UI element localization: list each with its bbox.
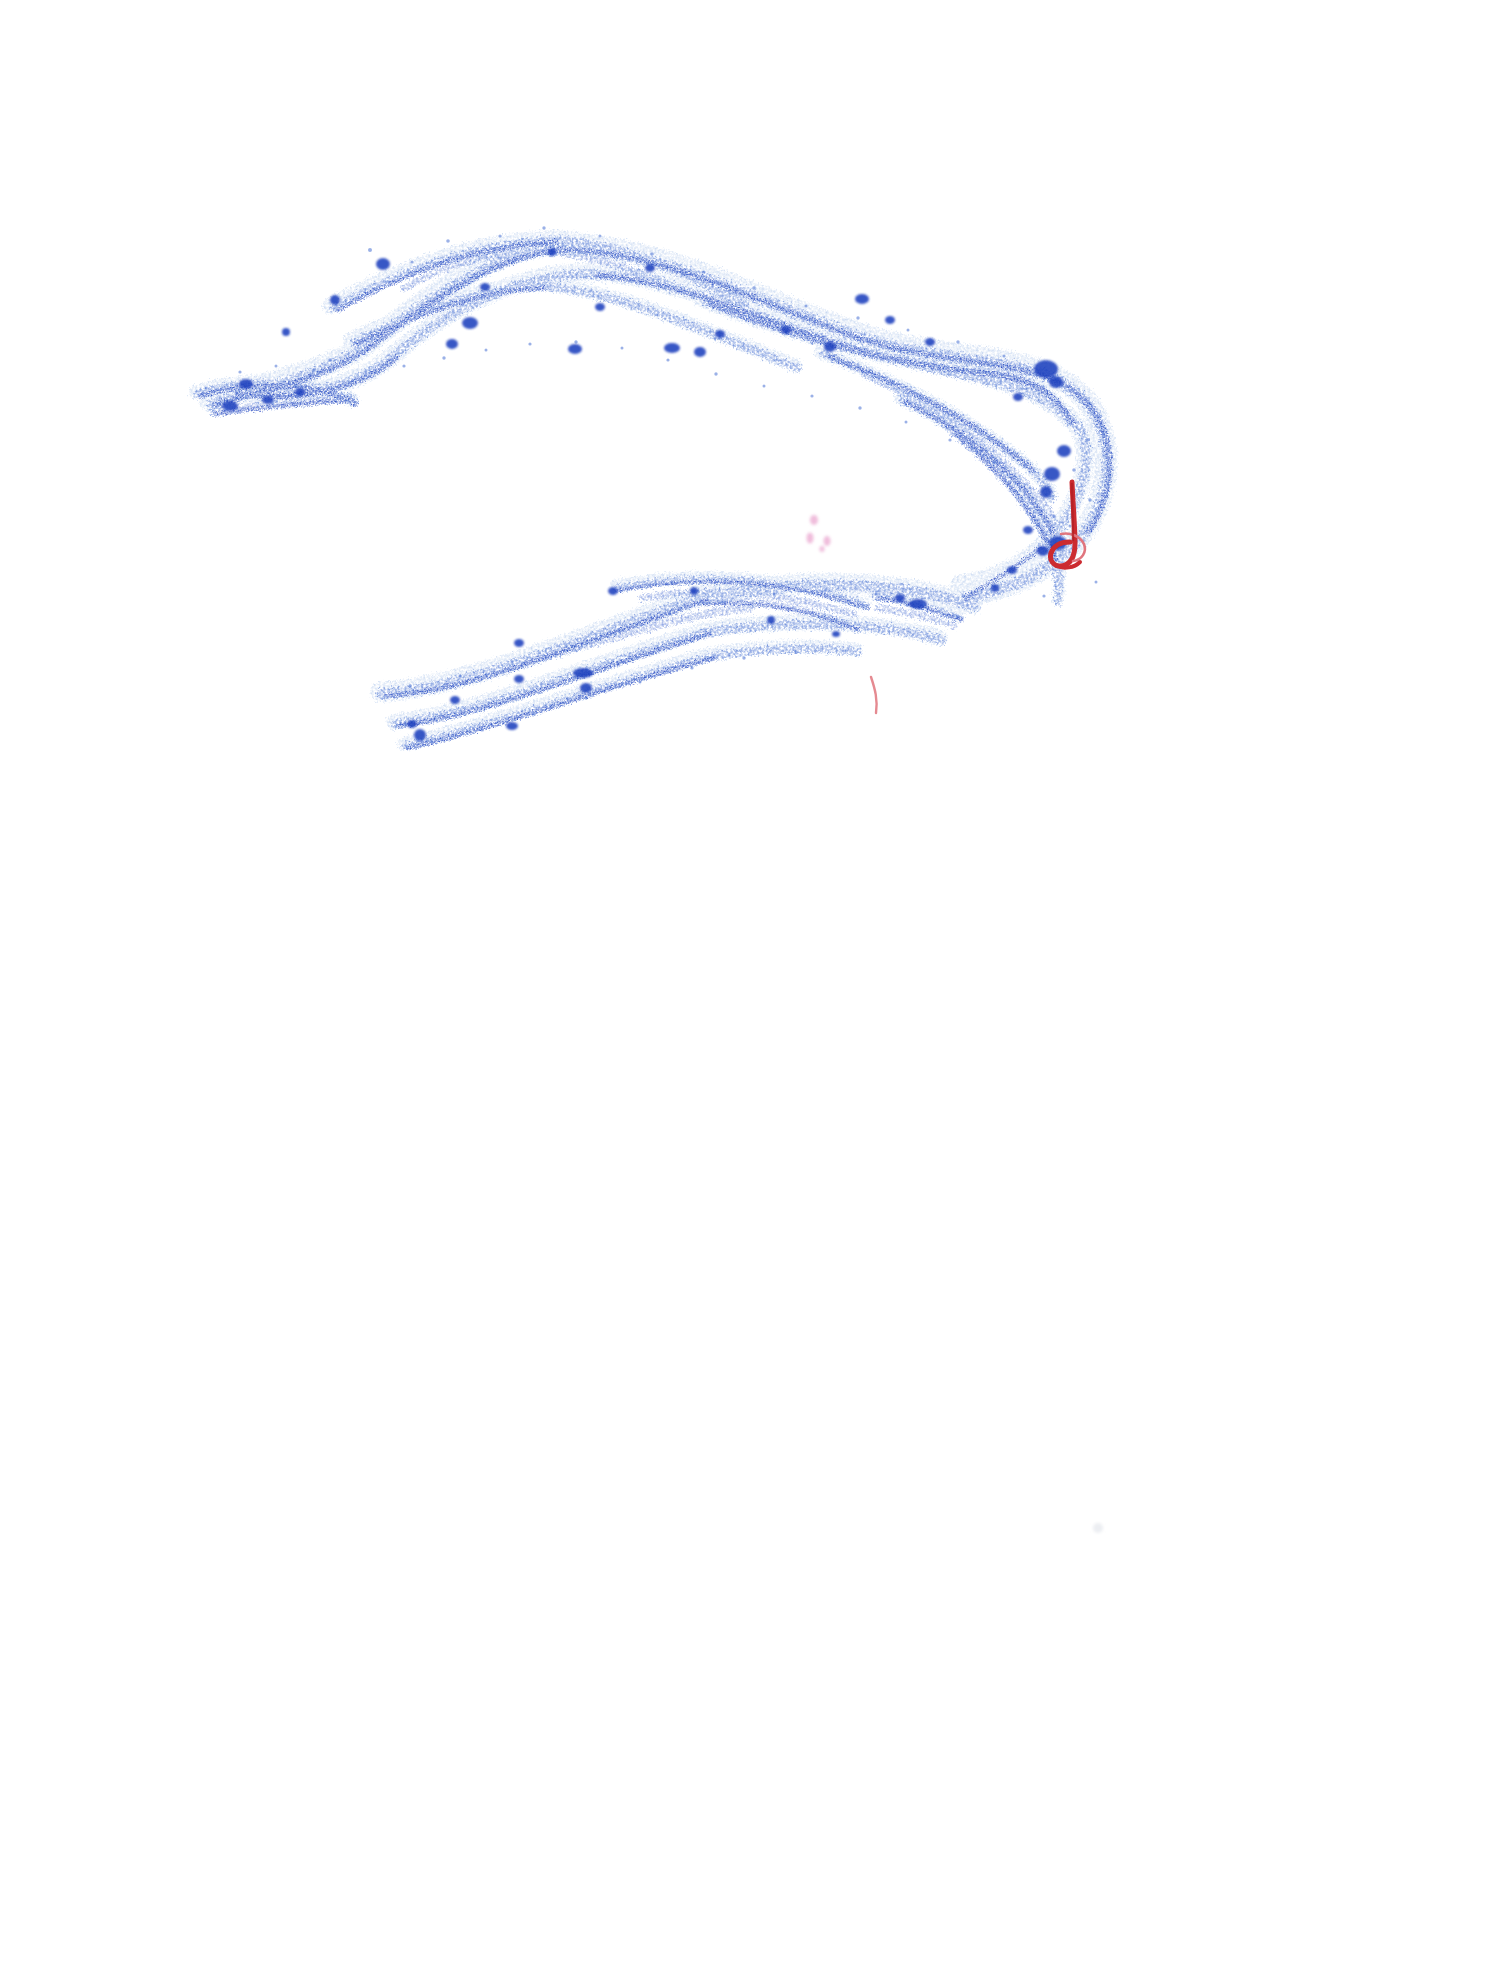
artwork-canvas: [0, 0, 1500, 1980]
gray-speck: [1093, 1523, 1103, 1533]
scanned-page: scanned-drawing portrait Loose gestural …: [0, 0, 1500, 1980]
